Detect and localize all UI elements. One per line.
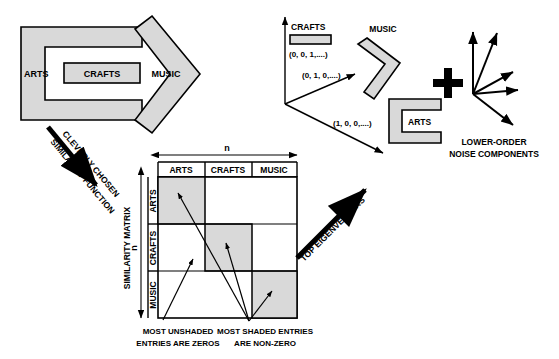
matrix-block-music-music [252, 271, 297, 318]
eigen-music-coords: (0, 1, 0,....) [302, 71, 341, 80]
music-shape-label: MUSIC [152, 69, 182, 79]
noise-label-line1: LOWER-ORDER [461, 137, 526, 147]
eigen-music-label: MUSIC [369, 24, 396, 34]
matrix-col-header-arts: ARTS [169, 165, 192, 175]
eigen-crafts-bar-shape [290, 35, 331, 44]
annotation-shaded-line2: ARE NON-ZERO [234, 339, 296, 348]
diagram-canvas: ARTS CRAFTS MUSIC CLEVERLY CHOSEN SIMILA… [0, 0, 559, 359]
matrix-row-header-crafts: CRAFTS [148, 230, 158, 265]
eigen-music-chevron-shape [358, 38, 400, 99]
plus-sign [433, 68, 463, 98]
top-eigenvectors-arrow: TOP EIGENVECTORS [297, 190, 367, 263]
eigen-crafts-coords: (0, 0, 1,....) [289, 50, 328, 59]
eigenvectors-arrow-label: TOP EIGENVECTORS [298, 195, 367, 264]
matrix-row-header-arts: ARTS [148, 189, 158, 212]
noise-label-line2: NOISE COMPONENTS [449, 149, 539, 159]
axis-arts [285, 104, 383, 153]
matrix-side-caption: SIMILARITY MATRIX [122, 207, 132, 290]
annotation-unshaded-line1: MOST UNSHADED [143, 327, 214, 336]
interlocking-shapes-group: ARTS CRAFTS MUSIC [21, 16, 200, 133]
matrix-col-header-music: MUSIC [260, 165, 287, 175]
matrix-block-crafts-crafts [205, 224, 252, 271]
matrix-top-axis-label: n [224, 143, 230, 153]
similarity-matrix: n n SIMILARITY MATRIX ARTS CRAFTS MUSIC … [122, 143, 314, 348]
noise-ray-2 [473, 33, 497, 94]
eigenvector-space: CRAFTS (0, 0, 1,....) MUSIC (0, 1, 0,...… [285, 17, 441, 153]
eigen-crafts-label: CRAFTS [291, 22, 326, 32]
eigen-arts-label: ARTS [408, 117, 431, 127]
annotation-shaded-line1: MOST SHADED ENTRIES [217, 327, 314, 336]
noise-ray-5 [473, 94, 513, 125]
crafts-shape-label: CRAFTS [84, 69, 121, 79]
matrix-col-header-crafts: CRAFTS [211, 165, 246, 175]
similarity-function-arrow: CLEVERLY CHOSEN SIMILARITY FUNCTION [48, 127, 122, 216]
annotation-unshaded-line2: ENTRIES ARE ZEROS [136, 339, 220, 348]
matrix-row-header-music: MUSIC [148, 281, 158, 308]
arts-shape-label: ARTS [24, 69, 49, 79]
eigen-arts-coords: (1, 0, 0,....) [333, 119, 372, 128]
noise-components-group: LOWER-ORDER NOISE COMPONENTS [449, 32, 539, 159]
